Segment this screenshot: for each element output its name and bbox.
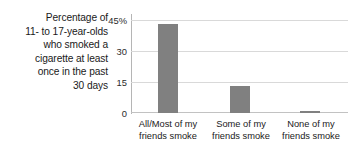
bar-chart-figure: Percentage of 11- to 17-year-olds who sm… bbox=[0, 0, 353, 153]
x-tick-line: friends smoke bbox=[264, 131, 353, 143]
x-tick-line: None of my bbox=[264, 119, 353, 131]
caption-line: 30 days bbox=[0, 79, 108, 93]
y-tick-label: 0 bbox=[101, 109, 127, 118]
gridline-45 bbox=[131, 20, 348, 21]
bar-all-most-friends-smoke bbox=[158, 24, 178, 113]
caption-line: who smoked a bbox=[0, 38, 108, 52]
y-tick-label: 15 bbox=[101, 78, 127, 87]
caption-line: 11- to 17-year-olds bbox=[0, 25, 108, 39]
bar-none-friends-smoke bbox=[300, 111, 320, 113]
plot-area bbox=[131, 20, 348, 113]
x-tick-label-none: None of my friends smoke bbox=[264, 119, 353, 142]
y-tick-label: 45% bbox=[101, 16, 127, 25]
y-tick-label: 30 bbox=[101, 47, 127, 56]
x-axis-tick-labels: All/Most of my friends smoke Some of my … bbox=[131, 119, 348, 149]
caption-line: Percentage of bbox=[0, 11, 108, 25]
caption-line: once in the past bbox=[0, 65, 108, 79]
chart-caption: Percentage of 11- to 17-year-olds who sm… bbox=[0, 11, 108, 93]
caption-line: cigarette at least bbox=[0, 52, 108, 66]
bar-some-friends-smoke bbox=[230, 86, 250, 113]
